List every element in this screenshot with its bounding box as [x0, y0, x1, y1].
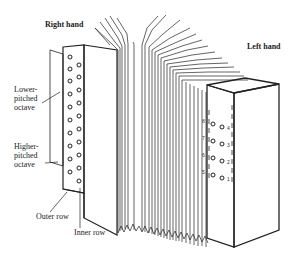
right-hand-front-panel — [84, 45, 117, 235]
label-lower-octave: Lower- pitched octave — [14, 85, 38, 112]
button-number-6: 6 — [202, 153, 205, 158]
accordion-diagram: Right hand Left hand Lower- pitched octa… — [0, 0, 293, 261]
button-number-4: 4 — [227, 126, 230, 131]
leader-outer-row — [50, 192, 67, 212]
right-hand-inner-row — [77, 63, 81, 183]
right-hand-keyboard — [63, 45, 84, 193]
label-right-hand: Right hand — [45, 20, 83, 29]
label-lower-octave-line2: pitched — [14, 94, 38, 103]
label-outer-row: Outer row — [36, 212, 69, 221]
right-hand-back-panel — [50, 50, 63, 166]
button-number-2: 2 — [227, 160, 230, 165]
button-number-3: 3 — [227, 143, 230, 148]
leader-lower-octave — [42, 92, 60, 103]
label-left-hand: Left hand — [247, 42, 281, 51]
button-number-5: 5 — [202, 170, 205, 175]
label-inner-row: Inner row — [74, 228, 105, 237]
right-hand-outer-row — [68, 55, 72, 174]
left-hand-box — [207, 78, 279, 247]
accordion-illustration — [0, 0, 293, 261]
label-lower-octave-line1: Lower- — [14, 85, 38, 94]
bellows-folds — [95, 15, 248, 247]
leader-right-hand — [95, 28, 110, 45]
button-number-7: 7 — [202, 136, 205, 141]
label-higher-octave: Higher- pitched octave — [14, 142, 39, 169]
label-higher-octave-line3: octave — [14, 160, 39, 169]
leader-higher-octave — [45, 162, 58, 163]
label-higher-octave-line2: pitched — [14, 151, 39, 160]
left-hand-buttons — [211, 122, 224, 180]
button-number-8: 8 — [202, 119, 205, 124]
label-higher-octave-line1: Higher- — [14, 142, 39, 151]
button-number-1: 1 — [227, 177, 230, 182]
label-lower-octave-line3: octave — [14, 103, 38, 112]
